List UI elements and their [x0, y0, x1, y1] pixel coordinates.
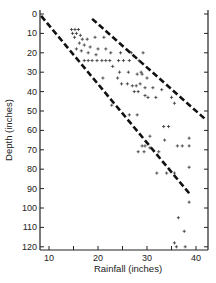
data-point [181, 144, 184, 147]
data-point [104, 59, 107, 62]
data-point [143, 144, 146, 147]
data-point [154, 96, 157, 99]
data-point [160, 88, 163, 91]
data-point [155, 171, 158, 174]
data-point [143, 86, 146, 89]
data-point [165, 171, 168, 174]
data-point [110, 104, 113, 107]
y-tick-label: 80 [27, 164, 37, 174]
data-point [116, 76, 119, 79]
data-point [148, 135, 151, 138]
data-point [96, 47, 99, 50]
data-point [75, 47, 78, 50]
data-point [157, 150, 160, 153]
y-tick-label: 40 [27, 87, 37, 97]
data-point [173, 241, 176, 244]
data-point [80, 49, 83, 52]
y-tick-label: 120 [22, 242, 37, 252]
data-point [70, 28, 73, 31]
data-point [188, 166, 191, 169]
data-point [73, 36, 76, 39]
y-tick-label: 30 [27, 67, 37, 77]
data-point [117, 59, 120, 62]
data-point [109, 51, 112, 54]
data-point [170, 96, 173, 99]
data-point [122, 59, 125, 62]
data-point [111, 65, 114, 68]
data-point [73, 28, 76, 31]
data-points [70, 28, 191, 248]
envelope-lines [41, 16, 205, 194]
data-point [141, 51, 144, 54]
data-point [128, 59, 131, 62]
data-point [167, 125, 170, 128]
data-point [163, 139, 166, 142]
data-point [71, 32, 74, 35]
x-tick-label: 30 [142, 253, 152, 263]
data-point [177, 216, 180, 219]
data-point [94, 53, 97, 56]
data-point [135, 84, 138, 87]
upper-envelope-line [92, 19, 205, 119]
y-tick-label: 10 [27, 28, 37, 38]
y-tick-label: 90 [27, 184, 37, 194]
lower-envelope-line [41, 16, 190, 194]
data-point [89, 45, 92, 48]
data-point [100, 59, 103, 62]
data-point [143, 94, 146, 97]
data-point [79, 34, 82, 37]
data-point [87, 59, 90, 62]
data-point [95, 59, 98, 62]
data-point [136, 113, 139, 116]
data-point [175, 245, 178, 248]
data-point [133, 90, 136, 93]
data-point [126, 82, 129, 85]
y-tick-label: 60 [27, 125, 37, 135]
data-point [146, 96, 149, 99]
data-point [108, 59, 111, 62]
data-point [151, 86, 154, 89]
data-point [120, 82, 123, 85]
x-tick-label: 10 [44, 253, 54, 263]
data-point [128, 113, 131, 116]
y-tick-label: 70 [27, 145, 37, 155]
data-point [137, 150, 140, 153]
data-point [142, 150, 145, 153]
data-point [188, 144, 191, 147]
data-point [78, 42, 81, 45]
x-tick-label: 20 [93, 253, 103, 263]
data-point [162, 125, 165, 128]
data-point [184, 245, 187, 248]
data-point [93, 36, 96, 39]
data-point [127, 71, 130, 74]
data-point [176, 144, 179, 147]
data-point [118, 71, 121, 74]
x-tick-label: 40 [191, 253, 201, 263]
axes: 010203040506070809010011012010203040 [22, 9, 208, 263]
data-point [188, 201, 191, 204]
data-point [91, 59, 94, 62]
data-point [102, 36, 105, 39]
y-tick-label: 0 [32, 9, 37, 19]
data-point [145, 76, 148, 79]
scatter-chart: 010203040506070809010011012010203040 Rai… [0, 0, 216, 283]
y-tick-label: 20 [27, 48, 37, 58]
data-point [183, 230, 186, 233]
data-point [77, 28, 80, 31]
data-point [87, 51, 90, 54]
data-point [141, 144, 144, 147]
data-point [119, 51, 122, 54]
data-point [139, 82, 142, 85]
data-point [188, 137, 191, 140]
data-point [81, 38, 84, 41]
data-point [173, 171, 176, 174]
data-point [104, 47, 107, 50]
data-point [83, 59, 86, 62]
data-point [75, 32, 78, 35]
data-point [83, 43, 86, 46]
data-point [137, 90, 140, 93]
y-tick-label: 50 [27, 106, 37, 116]
data-point [86, 38, 89, 41]
data-point [173, 102, 176, 105]
data-point [101, 76, 104, 79]
